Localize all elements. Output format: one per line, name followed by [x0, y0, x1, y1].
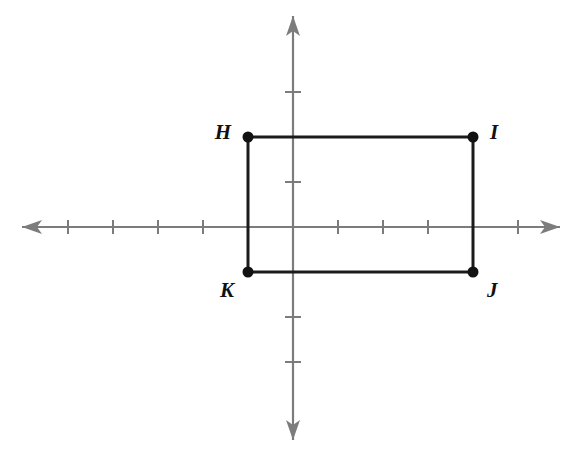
coordinate-plane-figure: HIJK [0, 0, 582, 463]
vertex-label-k: K [219, 278, 236, 302]
vertex-label-h: H [214, 120, 232, 144]
rectangle-hijk-vertex-labels: HIJK [214, 120, 499, 302]
axes-group [22, 16, 560, 440]
rectangle-hijk-edges [248, 137, 473, 272]
coordinate-plane-svg: HIJK [0, 0, 582, 463]
rectangle-hijk-vertices [243, 132, 479, 278]
vertex-dot-i [468, 132, 479, 143]
vertex-dot-j [468, 267, 479, 278]
vertex-dot-k [243, 267, 254, 278]
vertex-label-j: J [486, 278, 499, 302]
vertex-dot-h [243, 132, 254, 143]
vertex-label-i: I [489, 120, 499, 144]
